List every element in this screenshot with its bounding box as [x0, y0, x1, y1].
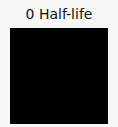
- card-title: 0 Half-life: [0, 5, 118, 23]
- black-swatch: [10, 28, 108, 124]
